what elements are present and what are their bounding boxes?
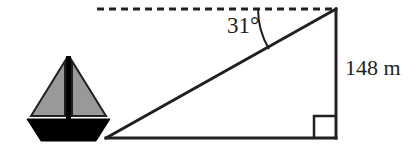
angle-label: 31° xyxy=(227,14,259,37)
line-of-sight-hypotenuse xyxy=(106,9,336,138)
height-label: 148 m xyxy=(345,57,401,79)
sailboat-icon xyxy=(27,56,110,141)
right-sail xyxy=(72,61,106,116)
right-angle-marker xyxy=(314,116,336,138)
mast xyxy=(66,56,71,122)
angle-arc xyxy=(258,9,269,49)
hull xyxy=(27,119,110,141)
left-sail xyxy=(31,61,65,116)
figure-container: 31° 148 m xyxy=(0,0,409,152)
